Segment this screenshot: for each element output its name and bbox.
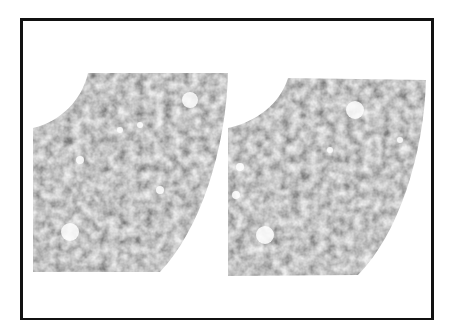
- left-panel: [30, 70, 230, 275]
- stereo-figure: [0, 0, 450, 335]
- right-panel: [225, 75, 430, 280]
